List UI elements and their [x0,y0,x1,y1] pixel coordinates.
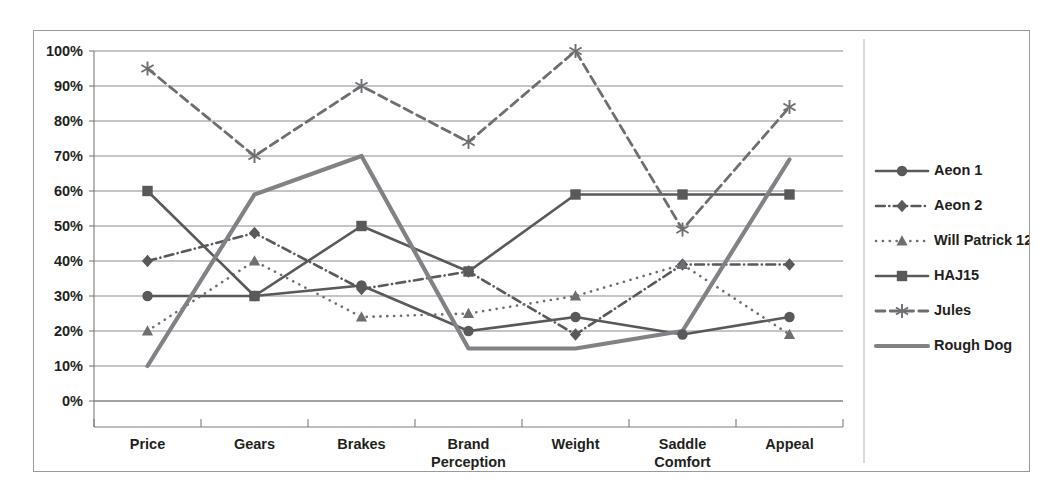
legend-swatch-marker [896,200,907,212]
legend-label-will-patrick-12: Will Patrick 12 [934,232,1029,248]
legend-swatch-marker [896,235,907,245]
series-line-haj15 [148,191,790,296]
marker-aeon-1 [570,312,580,322]
legend-label-rough-dog: Rough Dog [934,337,1012,353]
marker-will-patrick-12 [142,325,153,335]
y-tick-label: 100% [46,43,83,59]
marker-aeon-2 [249,227,260,239]
x-category-label: Weight [551,436,599,452]
x-axis-tick-marks [94,419,843,427]
marker-haj15 [249,291,259,301]
marker-will-patrick-12 [249,255,260,265]
x-category-label: Brand [448,436,490,452]
marker-haj15 [570,189,580,199]
marker-haj15 [677,189,687,199]
x-category-label: Appeal [765,436,813,452]
marker-will-patrick-12 [463,308,474,318]
y-tick-label: 40% [54,253,83,269]
legend-swatch-marker [897,166,907,176]
legend-swatch-marker [897,271,907,281]
marker-aeon-2 [784,258,795,270]
marker-aeon-1 [784,312,794,322]
y-tick-label: 0% [62,393,83,409]
x-category-label: Perception [431,454,506,470]
x-category-label: Gears [234,436,275,452]
y-tick-label: 90% [54,78,83,94]
y-tick-label: 10% [54,358,83,374]
y-tick-label: 70% [54,148,83,164]
x-category-label: Saddle [659,436,707,452]
y-tick-label: 80% [54,113,83,129]
chart-legend: Aeon 1Aeon 2Will Patrick 12HAJ15JulesRou… [864,39,1029,463]
legend-label-haj15: HAJ15 [934,267,979,283]
y-tick-label: 30% [54,288,83,304]
line-chart: 0%10%20%30%40%50%60%70%80%90%100% PriceG… [34,31,1029,471]
y-axis-tick-labels: 0%10%20%30%40%50%60%70%80%90%100% [46,43,83,409]
y-tick-label: 60% [54,183,83,199]
x-category-label: Brakes [337,436,385,452]
axes-group [94,51,843,427]
marker-will-patrick-12 [570,290,581,300]
marker-aeon-1 [142,291,152,301]
y-tick-label: 20% [54,323,83,339]
marker-haj15 [463,266,473,276]
data-series-group [148,51,790,366]
x-category-label: Price [130,436,165,452]
marker-haj15 [356,221,366,231]
marker-haj15 [142,186,152,196]
gridlines-group [89,51,843,401]
x-axis-category-labels: PriceGearsBrakesBrandPerceptionWeightSad… [130,436,814,470]
legend-label-jules: Jules [934,302,971,318]
marker-aeon-1 [677,329,687,339]
y-tick-label: 50% [54,218,83,234]
marker-will-patrick-12 [784,329,795,339]
legend-label-aeon-2: Aeon 2 [934,197,982,213]
marker-aeon-1 [463,326,473,336]
marker-aeon-2 [142,255,153,267]
marker-will-patrick-12 [356,311,367,321]
x-category-label: Comfort [654,454,711,470]
chart-container: 0%10%20%30%40%50%60%70%80%90%100% PriceG… [33,30,1030,472]
marker-aeon-2 [570,328,581,340]
legend-label-aeon-1: Aeon 1 [934,162,982,178]
marker-haj15 [784,189,794,199]
